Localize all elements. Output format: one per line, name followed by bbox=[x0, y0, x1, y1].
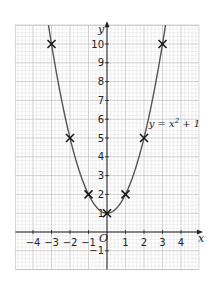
y-axis-arrow-icon bbox=[105, 21, 110, 27]
y-tick-label: 9 bbox=[98, 57, 104, 68]
y-tick-label: 10 bbox=[91, 39, 104, 50]
x-tick-label: −4 bbox=[26, 237, 41, 248]
y-tick-label: 2 bbox=[98, 189, 104, 200]
y-tick-label: 7 bbox=[98, 95, 104, 106]
x-tick-label: −2 bbox=[63, 237, 78, 248]
y-tick-label: 6 bbox=[98, 114, 104, 125]
y-tick-label: 5 bbox=[98, 133, 104, 144]
x-axis-label: x bbox=[198, 232, 205, 245]
x-tick-label: 3 bbox=[159, 237, 165, 248]
x-tick-label: 1 bbox=[122, 237, 128, 248]
x-tick-label: −3 bbox=[44, 237, 59, 248]
equation-label: y = x2 + 1 bbox=[148, 117, 201, 129]
x-tick-label: 2 bbox=[141, 237, 147, 248]
tick-labels: −4−3−2−11234−112345678910 bbox=[26, 39, 185, 257]
y-tick-label: −1 bbox=[89, 245, 104, 256]
x-tick-label: 4 bbox=[178, 237, 184, 248]
quadratic-graph: xyO −4−3−2−11234−112345678910 y = x2 + 1 bbox=[0, 0, 213, 289]
y-tick-label: 3 bbox=[98, 170, 104, 181]
y-tick-label: 4 bbox=[98, 151, 104, 162]
y-tick-label: 8 bbox=[98, 76, 104, 87]
y-axis-label: y bbox=[97, 23, 105, 36]
origin-label: O bbox=[99, 232, 108, 245]
